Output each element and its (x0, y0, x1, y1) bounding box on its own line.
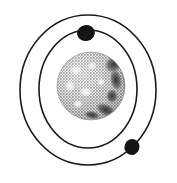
nucleus-highlight-spot (70, 65, 82, 75)
nucleus-highlight-spot (65, 80, 75, 92)
nucleus-highlight-spot (73, 100, 83, 108)
nucleus-highlight-spot (87, 62, 97, 70)
atom-diagram-canvas (0, 0, 177, 183)
nucleus-highlight-spot (97, 78, 105, 86)
atom-diagram-figure: Atom orbit diagram (0, 0, 177, 183)
nucleus-highlight-spot (79, 87, 93, 97)
nucleus-dark-patch (106, 89, 118, 103)
